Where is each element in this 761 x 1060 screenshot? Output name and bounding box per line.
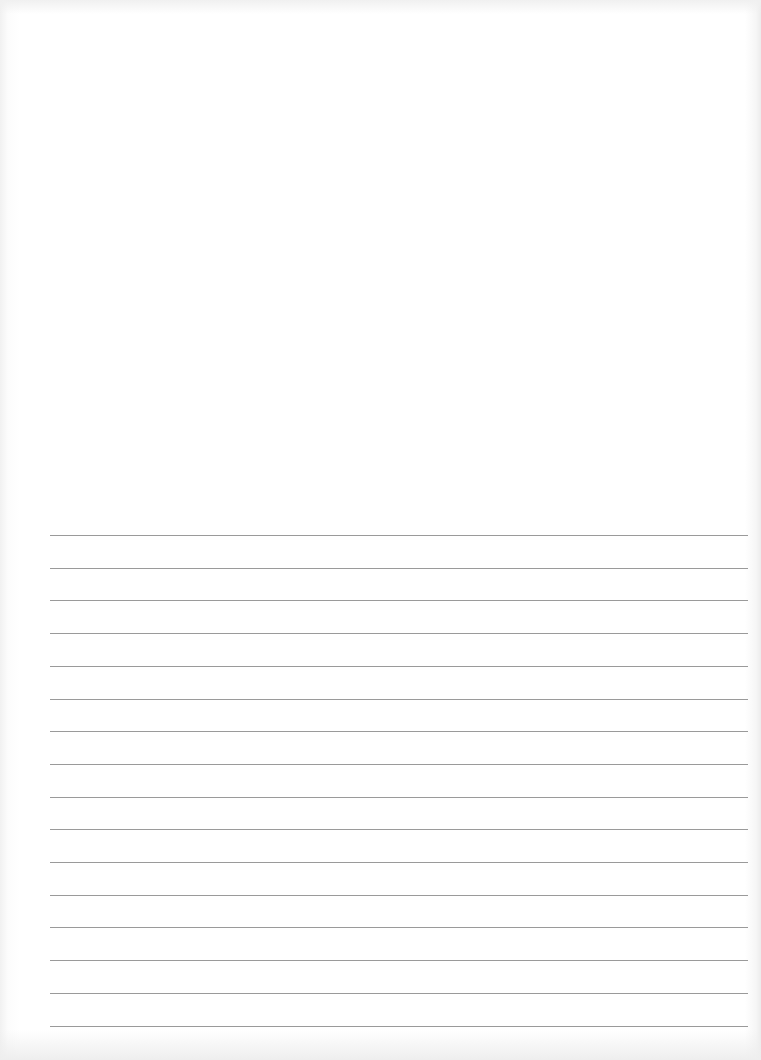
ruled-line xyxy=(50,993,748,994)
ruled-line xyxy=(50,666,748,667)
ruled-line xyxy=(50,1026,748,1027)
ruled-line xyxy=(50,535,748,536)
scan-shadow-top xyxy=(0,0,761,14)
ruled-line xyxy=(50,829,748,830)
ruled-line xyxy=(50,895,748,896)
ruled-line xyxy=(50,960,748,961)
ruled-line xyxy=(50,862,748,863)
scan-shadow-bottom xyxy=(0,1030,761,1060)
ruled-line xyxy=(50,797,748,798)
ruled-line xyxy=(50,568,748,569)
ruled-line xyxy=(50,927,748,928)
ruled-line xyxy=(50,699,748,700)
ruled-line xyxy=(50,633,748,634)
ruled-line xyxy=(50,731,748,732)
ruled-line xyxy=(50,764,748,765)
ruled-line xyxy=(50,600,748,601)
ruled-paper-page xyxy=(0,0,761,1060)
